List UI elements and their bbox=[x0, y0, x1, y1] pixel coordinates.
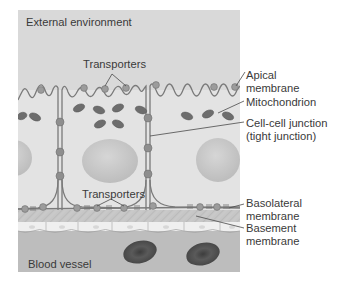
basolateral-membrane-callout: Basolateral membrane bbox=[246, 197, 302, 222]
junction-callout-line2: (tight junction) bbox=[246, 130, 327, 143]
external-environment-label: External environment bbox=[26, 16, 132, 29]
apical-membrane-callout: Apical membrane bbox=[246, 69, 299, 94]
basolateral-callout-line2: membrane bbox=[246, 210, 302, 223]
basolateral-callout-line1: Basolateral bbox=[246, 197, 302, 210]
junction-callout-line1: Cell-cell junction bbox=[246, 117, 327, 130]
apical-transporters-label: Transporters bbox=[83, 58, 146, 71]
apical-callout-line2: membrane bbox=[246, 82, 299, 95]
mitochondrion-callout: Mitochondrion bbox=[246, 96, 316, 109]
basolateral-transporters-label: Transporters bbox=[82, 188, 145, 201]
apical-callout-line1: Apical bbox=[246, 69, 299, 82]
basement-membrane bbox=[18, 210, 240, 222]
basement-callout-line2: membrane bbox=[246, 235, 299, 248]
basement-membrane-callout: Basement membrane bbox=[246, 222, 299, 247]
junction-callout: Cell-cell junction (tight junction) bbox=[246, 117, 327, 142]
endothelial-layer bbox=[18, 222, 240, 233]
blood-vessel-label: Blood vessel bbox=[28, 258, 91, 271]
basement-callout-line1: Basement bbox=[246, 222, 299, 235]
